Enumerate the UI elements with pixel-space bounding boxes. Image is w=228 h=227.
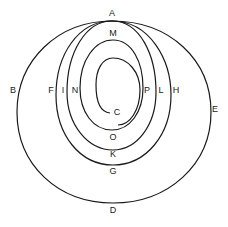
label-D: D	[110, 205, 117, 215]
label-E: E	[212, 104, 218, 114]
label-N: N	[72, 85, 79, 95]
label-B: B	[10, 85, 16, 95]
label-L: L	[158, 85, 163, 95]
label-K: K	[110, 149, 116, 159]
label-C: C	[114, 107, 121, 117]
label-H: H	[173, 85, 180, 95]
label-I: I	[62, 85, 65, 95]
label-A: A	[109, 8, 115, 18]
spiral-diagram: A M B F I N P L H E C O K G D	[0, 0, 228, 227]
label-F: F	[48, 85, 54, 95]
curve-MPON	[80, 40, 143, 130]
label-P: P	[144, 85, 150, 95]
label-M: M	[109, 28, 117, 38]
label-G: G	[109, 166, 116, 176]
label-O: O	[109, 132, 116, 142]
